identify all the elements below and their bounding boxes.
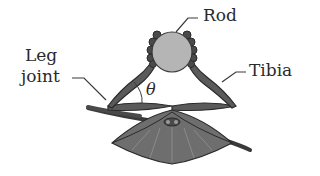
femur-left <box>108 103 172 111</box>
rod-label: Rod <box>203 7 237 24</box>
tibia-label: Tibia <box>249 62 292 79</box>
tibia-right <box>190 64 236 108</box>
rod-leader <box>176 18 198 32</box>
tibia-leader <box>222 72 246 82</box>
leg-joint-leader <box>72 78 106 100</box>
angle-theta-label: θ <box>146 82 156 98</box>
rod <box>152 32 192 72</box>
femur-right <box>172 103 236 111</box>
leg-joint-label-line1: Leg <box>25 47 57 64</box>
leg-joint-label-line2: joint <box>21 68 60 85</box>
